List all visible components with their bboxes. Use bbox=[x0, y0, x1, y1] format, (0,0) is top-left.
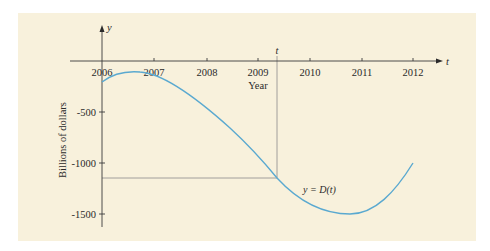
y-tick-label: -1000 bbox=[72, 158, 97, 169]
x-tick-label: 2011 bbox=[352, 67, 373, 78]
x-tick-label: 2006 bbox=[92, 67, 113, 78]
curve-D-of-t bbox=[102, 72, 413, 214]
x-axis-variable: t bbox=[446, 56, 450, 67]
x-tick-label: 2010 bbox=[300, 67, 321, 78]
x-tick-label: 2009 bbox=[248, 67, 269, 78]
x-tick-label: 2012 bbox=[403, 67, 424, 78]
curve-label: y = D(t) bbox=[302, 184, 337, 196]
y-axis-title: Billions of dollars bbox=[57, 102, 68, 178]
x-axis-title: Year bbox=[248, 80, 268, 91]
chart-svg: 2006 2007 2008 2009 2010 2011 2012 -500 … bbox=[0, 0, 490, 251]
y-tick-label: -1500 bbox=[72, 209, 97, 220]
y-axis-arrow-icon bbox=[100, 25, 105, 32]
t-marker-label: t bbox=[276, 45, 280, 56]
x-tick-label: 2008 bbox=[197, 67, 218, 78]
x-axis-arrow-icon bbox=[436, 59, 443, 64]
y-tick-label: -500 bbox=[77, 107, 96, 118]
y-axis-variable: y bbox=[106, 22, 112, 33]
